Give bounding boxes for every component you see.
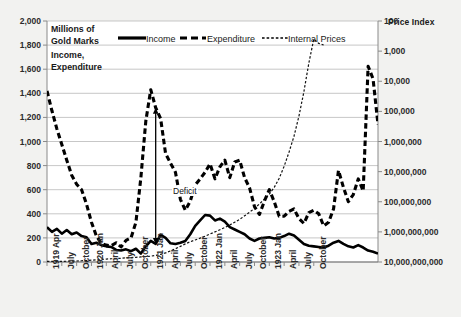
x-axis-tick-label: 1921 Jan (155, 233, 165, 269)
right-axis-tick-label: 1,000,000,000 (384, 227, 438, 237)
x-axis-tick-label: July (303, 252, 313, 269)
left-axis-tick-label: 1,600 (0, 64, 41, 74)
left-axis-tick-label: 400 (0, 209, 41, 219)
x-axis-tick-label: October (81, 236, 91, 269)
right-axis-tick-label: 10,000 (384, 76, 410, 86)
left-axis-label-line-2: Gold Marks (51, 36, 99, 48)
left-axis-tick-label: 2,000 (0, 16, 41, 26)
x-axis-tick-label: April (170, 250, 180, 269)
right-axis-tick-label: 1,000 (384, 46, 405, 56)
legend-label-income: Income (146, 34, 176, 44)
left-axis-label-line-1: Millions of (51, 24, 95, 36)
x-axis-tick-label: October (318, 236, 328, 269)
left-axis-label-line-4: Expenditure (51, 62, 102, 74)
right-axis-tick-label: 100,000,000 (384, 197, 431, 207)
x-axis-tick-label: July (244, 252, 254, 269)
x-axis-tick-label: 1922 Jan (214, 233, 224, 269)
deficit-annotation-label: Deficit (172, 186, 198, 196)
right-axis-tick-label: 1,000,000 (384, 137, 422, 147)
left-axis-tick-label: 0 (0, 257, 41, 267)
right-axis-tick-label: 10,000,000 (384, 167, 427, 177)
legend-label-expenditure: Expenditure (207, 34, 255, 44)
x-axis-tick-label: April (229, 250, 239, 269)
right-axis-tick-label: 100 (384, 16, 398, 26)
price-index-budget-chart: Price Index Millions of Gold Marks Incom… (0, 0, 461, 317)
x-axis-tick-label: October (199, 236, 209, 269)
x-axis-tick-label: 1919 Apr (51, 233, 61, 269)
x-axis-tick-label: 1923 Jan (273, 233, 283, 269)
left-axis-tick-label: 1,200 (0, 112, 41, 122)
x-axis-tick-label: July (125, 252, 135, 269)
x-axis-tick-label: October (258, 236, 268, 269)
x-axis-tick-label: 1920 Jan (95, 233, 105, 269)
left-axis-label-line-3: Income, (51, 50, 84, 62)
right-axis-tick-label: 10,000,000,000 (384, 257, 443, 267)
x-axis-tick-label: April (288, 250, 298, 269)
left-axis-tick-label: 1,000 (0, 137, 41, 147)
x-axis-tick-label: October (140, 236, 150, 269)
left-axis-tick-label: 1,800 (0, 40, 41, 50)
left-axis-tick-label: 200 (0, 233, 41, 243)
left-axis-tick-label: 1,400 (0, 88, 41, 98)
x-axis-tick-label: July (66, 252, 76, 269)
legend-label-internal-prices: Internal Prices (288, 34, 346, 44)
x-axis-tick-label: April (110, 250, 120, 269)
x-axis-tick-label: July (184, 252, 194, 269)
left-axis-tick-label: 600 (0, 185, 41, 195)
right-axis-tick-label: 100,000 (384, 106, 415, 116)
left-axis-tick-label: 800 (0, 161, 41, 171)
